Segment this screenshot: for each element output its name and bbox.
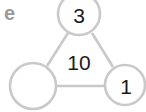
- edge-top-to-bottom-left: [47, 33, 68, 66]
- part-label: e: [4, 2, 15, 24]
- center-sum-value: 10: [67, 51, 90, 74]
- edge-top-to-bottom-right: [92, 33, 113, 67]
- node-bottom-left[interactable]: [10, 63, 56, 109]
- triangle-number-diagram: e 3 1 10: [0, 0, 146, 112]
- node-bottom-right-value: 1: [120, 75, 132, 98]
- node-top-value: 3: [73, 4, 85, 27]
